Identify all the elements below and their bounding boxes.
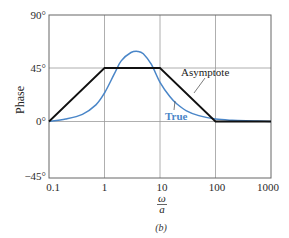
asymptote-label: Asymptote [181,66,229,78]
y-axis-label: Phase [13,86,27,114]
y-tick-90: 90° [31,9,46,21]
y-tick-0: 0° [36,115,46,127]
x-axis-label-denominator: a [159,203,165,215]
gridlines [49,15,271,178]
y-tick-45: 45° [31,62,46,74]
true-label: True [165,110,188,122]
x-tick-1: 1 [102,181,108,193]
x-tick-100: 100 [209,181,226,193]
y-tick-neg45: −45° [24,170,46,182]
x-tick-1000: 1000 [257,181,280,193]
asymptote-leader [194,78,205,93]
phase-chart: Asymptote True 90° 45° 0° −45° Phase 0.1… [0,0,289,238]
figure-caption: (b) [155,222,167,234]
x-tick-0.1: 0.1 [46,181,60,193]
